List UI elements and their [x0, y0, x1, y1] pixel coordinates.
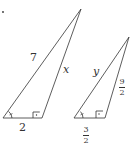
triangle-large-outline [3, 9, 81, 118]
figure-marker-dot [2, 11, 4, 13]
label-base-3-over-2: 3 2 [83, 126, 89, 145]
fraction-denominator: 2 [119, 89, 124, 97]
angle-dot-right-2 [98, 113, 99, 114]
angle-dot-right [36, 114, 37, 115]
label-side-9-over-2: 9 2 [119, 78, 125, 97]
label-side-7: 7 [30, 52, 37, 63]
fraction-numerator: 9 [119, 78, 124, 86]
angle-mark-right-2 [96, 111, 103, 118]
label-side-x: x [63, 64, 69, 75]
label-base-2: 2 [19, 122, 26, 133]
triangle-large [3, 9, 81, 118]
fraction-denominator: 2 [83, 137, 88, 145]
label-side-y: y [93, 66, 99, 77]
fraction-numerator: 3 [83, 126, 88, 134]
